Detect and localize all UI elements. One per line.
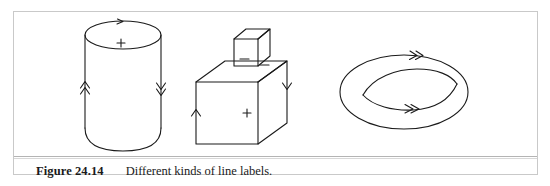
small-cube-front-face [234, 39, 258, 66]
cylinder-bottom-arc [85, 128, 161, 151]
large-box-shape [196, 61, 287, 144]
torus-inner-upper-arc [363, 69, 457, 95]
figure-caption: Figure 24.14Different kinds of line labe… [36, 163, 272, 179]
cylinder-shape [85, 21, 161, 151]
figure-caption-label: Figure 24.14 [36, 164, 104, 178]
large-box-right-face [258, 61, 287, 144]
torus-inner-lower-arc [363, 84, 457, 110]
figure-artwork [13, 11, 538, 157]
caption-divider-bottom [14, 158, 537, 159]
large-box-plus-label [243, 109, 251, 117]
caption-divider-top [14, 156, 537, 157]
torus-inner-double-arrow-icon [405, 105, 419, 114]
cylinder-plus-label [117, 39, 125, 47]
torus-outer-ellipse [340, 55, 468, 129]
figure-caption-text: Different kinds of line labels. [126, 164, 273, 178]
figure-page: Figure 24.14Different kinds of line labe… [0, 0, 550, 186]
cylinder-top-ellipse [85, 21, 161, 49]
torus-shape [340, 55, 468, 129]
